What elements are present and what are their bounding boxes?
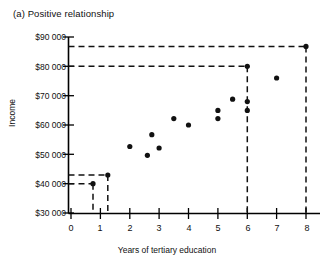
data-point <box>245 108 250 113</box>
data-point <box>245 99 250 104</box>
data-point <box>215 108 220 113</box>
scatter-plot-figure: (a) Positive relationship Income Years o… <box>0 0 334 268</box>
data-point <box>171 116 176 121</box>
data-point <box>157 145 162 150</box>
data-point <box>245 64 250 69</box>
data-point <box>215 116 220 121</box>
data-point <box>230 97 235 102</box>
data-point <box>274 75 279 80</box>
data-point <box>149 132 154 137</box>
data-point <box>127 144 132 149</box>
data-points <box>90 44 308 186</box>
plot-canvas <box>0 0 334 268</box>
data-point <box>105 172 110 177</box>
data-point <box>90 181 95 186</box>
guide-lines <box>69 46 307 213</box>
data-point <box>145 153 150 158</box>
data-point <box>303 44 308 49</box>
data-point <box>186 122 191 127</box>
